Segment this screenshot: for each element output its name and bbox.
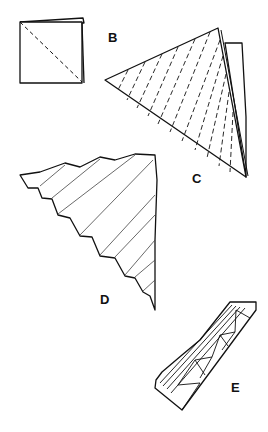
step-e-collapsed-strip — [155, 302, 256, 410]
folding-diagram — [0, 0, 268, 432]
step-label-d: D — [100, 292, 109, 307]
step-label-c: C — [192, 171, 201, 186]
step-c-triangle — [105, 28, 248, 177]
step-b-square — [20, 18, 84, 83]
step-d-pleated-triangle — [20, 154, 157, 310]
step-label-b: B — [108, 30, 117, 45]
step-label-e: E — [231, 380, 240, 395]
